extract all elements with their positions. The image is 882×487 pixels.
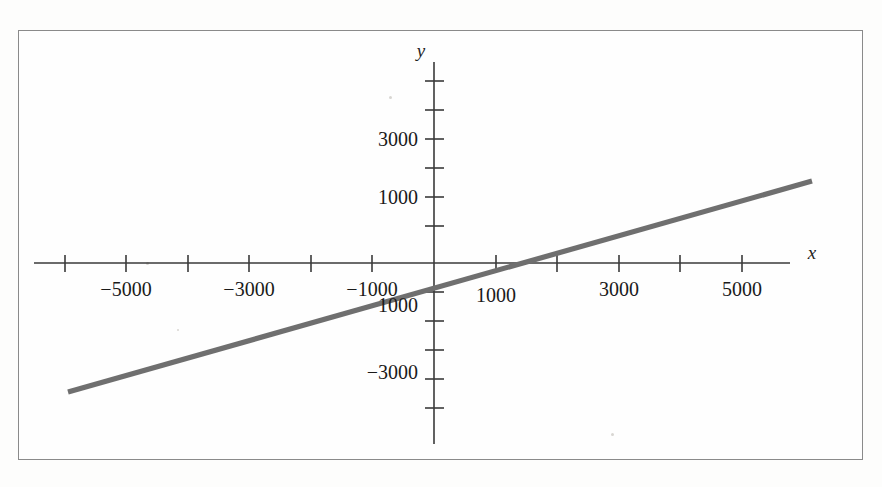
y-tick-label: 1000: [378, 294, 418, 316]
figure-canvas: x y −5000 −3000 −1000 1000 3000 5000 300…: [0, 0, 882, 487]
y-tick-label: 1000: [378, 186, 418, 208]
y-tick-label: −3000: [367, 361, 418, 383]
x-tick-label: 3000: [599, 278, 639, 300]
data-line-series: [68, 181, 812, 392]
y-tick-label: 3000: [378, 128, 418, 150]
x-tick-label: 1000: [476, 284, 516, 306]
x-axis-label: x: [807, 242, 817, 263]
y-axis-label: y: [415, 40, 426, 61]
x-tick-label: 5000: [722, 278, 762, 300]
x-tick-label: −5000: [100, 278, 151, 300]
plot-area: x y −5000 −3000 −1000 1000 3000 5000 300…: [0, 0, 882, 487]
x-tick-label: −3000: [223, 278, 274, 300]
